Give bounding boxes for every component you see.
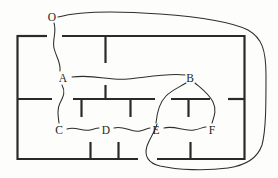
five-room-puzzle-figure: O A B C D E F bbox=[0, 0, 278, 178]
edge-O-A bbox=[54, 23, 61, 71]
figure-canvas: O A B C D E F bbox=[0, 0, 278, 178]
node-label-C: C bbox=[55, 124, 63, 136]
node-label-F: F bbox=[209, 124, 215, 136]
node-label-D: D bbox=[102, 124, 110, 136]
edge-E-F bbox=[164, 127, 206, 130]
edge-D-E bbox=[114, 127, 150, 131]
floor-plan-walls bbox=[17, 35, 245, 160]
node-label-E: E bbox=[152, 124, 159, 136]
edge-A-B bbox=[72, 74, 185, 79]
node-label-B: B bbox=[186, 72, 194, 84]
edge-C-D bbox=[67, 128, 99, 130]
edge-B-F bbox=[195, 83, 215, 123]
edge-B-E bbox=[156, 83, 186, 123]
node-labels: O A B C D E F bbox=[48, 11, 215, 136]
edge-A-C bbox=[58, 85, 64, 123]
node-label-O: O bbox=[48, 11, 56, 23]
node-label-A: A bbox=[59, 72, 68, 84]
